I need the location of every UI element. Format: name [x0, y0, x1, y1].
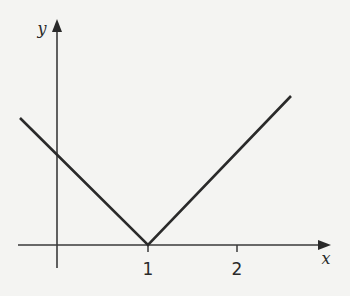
y-axis-label: y: [36, 19, 47, 38]
chart-canvas: 1 2 x y: [0, 0, 350, 296]
x-axis-label: x: [321, 249, 330, 268]
function-line: [20, 96, 291, 245]
y-axis-arrow-icon: [52, 19, 62, 32]
chart-svg: 1 2 x y: [0, 0, 350, 296]
x-tick-label-1: 1: [143, 259, 154, 279]
x-tick-label-2: 2: [232, 259, 243, 279]
